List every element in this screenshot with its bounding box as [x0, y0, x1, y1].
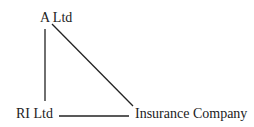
- node-ri-ltd: RI Ltd: [16, 107, 53, 121]
- node-a-ltd: A Ltd: [40, 11, 72, 25]
- node-insurance-company: Insurance Company: [135, 107, 247, 121]
- edge-a-ltd-insurance-company: [52, 24, 133, 106]
